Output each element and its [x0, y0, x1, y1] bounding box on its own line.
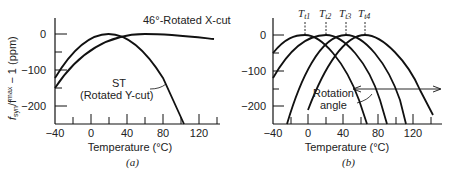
- caption-b: (b): [342, 156, 355, 169]
- y-axis-label: fsyn/fmax − 1 (ppm): [6, 36, 20, 120]
- x-axis-label-b: Temperature (°C): [305, 141, 389, 153]
- svg-text:0: 0: [305, 127, 311, 139]
- svg-text:0: 0: [260, 29, 266, 41]
- label-rotation: Rotation: [313, 87, 354, 99]
- svg-text:−40: −40: [46, 127, 65, 139]
- label-xcut: 46°-Rotated X-cut: [143, 14, 231, 26]
- svg-text:−40: −40: [264, 127, 283, 139]
- svg-text:40: 40: [121, 127, 133, 139]
- label-tt2: Tt2: [319, 7, 331, 21]
- xcut-curve: [55, 34, 214, 88]
- svg-text:0: 0: [40, 28, 46, 40]
- label-tt1: Tt1: [298, 7, 310, 21]
- svg-text:80: 80: [372, 127, 384, 139]
- svg-text:0: 0: [88, 127, 94, 139]
- figure: 0 −100 −200 −40 0 40 80 120 Temperature …: [0, 0, 450, 177]
- svg-text:fsyn/fmax − 1 (ppm): fsyn/fmax − 1 (ppm): [6, 36, 20, 120]
- caption-a: (a): [126, 156, 139, 169]
- svg-text:−100: −100: [241, 65, 266, 77]
- label-angle: angle: [320, 99, 347, 111]
- label-tt3: Tt3: [339, 7, 351, 21]
- panel-b: [273, 18, 442, 124]
- label-st: ST: [112, 77, 126, 89]
- svg-text:−200: −200: [241, 100, 266, 112]
- svg-text:120: 120: [190, 127, 208, 139]
- svg-text:−100: −100: [21, 64, 46, 76]
- svg-text:80: 80: [157, 127, 169, 139]
- svg-text:40: 40: [337, 127, 349, 139]
- label-tt4: Tt4: [358, 7, 370, 21]
- panel-a: [55, 18, 220, 124]
- label-st-2: (Rotated Y-cut): [80, 89, 153, 101]
- x-axis-label-a: Temperature (°C): [88, 141, 172, 153]
- svg-text:120: 120: [404, 127, 422, 139]
- svg-text:−200: −200: [21, 100, 46, 112]
